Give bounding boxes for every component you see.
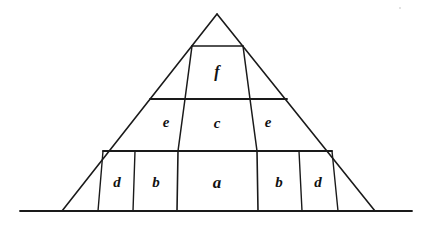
- region-label-e-right: e: [265, 114, 272, 130]
- region-label-d-left: d: [113, 174, 121, 190]
- region-label-c: c: [214, 115, 221, 131]
- divider-b-right: [299, 151, 302, 211]
- divider-a-left: [177, 151, 178, 211]
- divider-d-left: [98, 151, 103, 211]
- region-label-e-left: e: [163, 114, 170, 130]
- region-label-f: f: [214, 63, 221, 81]
- triangle-left-edge: [62, 14, 217, 211]
- divider-c-left: [178, 99, 185, 151]
- region-label-b-left: b: [152, 174, 160, 190]
- paper-speck: [399, 7, 401, 9]
- figure-root: f e c e d b a b d: [0, 0, 429, 227]
- pyramid-diagram: f e c e d b a b d: [0, 0, 429, 227]
- region-label-a: a: [213, 173, 222, 192]
- region-label-b-right: b: [275, 174, 283, 190]
- divider-c-right: [250, 99, 257, 151]
- divider-a-right: [257, 151, 258, 211]
- region-label-d-right: d: [314, 174, 322, 190]
- triangle-right-edge: [217, 14, 375, 211]
- divider-b-left: [133, 151, 135, 211]
